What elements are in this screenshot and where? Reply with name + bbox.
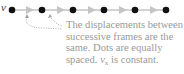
dot-2 <box>39 7 46 14</box>
caption-line-3: same. Dots are equally <box>66 42 184 54</box>
caption: The displacements between successive fra… <box>66 19 184 69</box>
caption-line-4: spaced. vx is constant. <box>66 54 184 70</box>
dot-5 <box>132 7 139 14</box>
pointer-arrowheads <box>25 14 52 18</box>
displacement-arrows <box>12 6 166 14</box>
dot-4 <box>101 7 108 14</box>
velocity-vector-label: v⃗ <box>1 1 14 13</box>
motion-diagram: v⃗ The displacements between successive … <box>0 0 184 74</box>
caption-line-1: The displacements between <box>66 19 184 31</box>
dot-6 <box>163 7 170 14</box>
dot-3 <box>70 7 77 14</box>
caption-line-2: successive frames are the <box>66 31 184 43</box>
dotted-pointer <box>26 16 62 29</box>
